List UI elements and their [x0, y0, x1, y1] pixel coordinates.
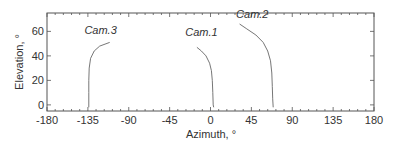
series-label-cam3: Cam.3 [84, 24, 117, 36]
y-tick-label: 20 [32, 74, 44, 86]
x-tick-label: -180 [36, 114, 58, 126]
y-tick-label: 60 [32, 25, 44, 37]
y-tick-label: 40 [32, 50, 44, 62]
series-label-cam2: Cam.2 [236, 8, 268, 20]
series-line-cam1 [197, 47, 214, 107]
x-tick-label: 45 [245, 114, 257, 126]
y-axis-title: Elevation, ° [13, 34, 25, 90]
x-tick-label: -45 [162, 114, 178, 126]
series-label-cam1: Cam.1 [185, 26, 217, 38]
x-tick-label: -90 [121, 114, 137, 126]
x-tick-label: 180 [365, 114, 383, 126]
series-line-cam2 [240, 24, 274, 107]
series-lines [89, 24, 273, 107]
x-tick-label: 0 [207, 114, 213, 126]
chart: -180-135-90-4504590135180 0204060 Cam.3C… [0, 0, 398, 147]
x-tick-label: 135 [324, 114, 342, 126]
x-tick-label: -135 [77, 114, 99, 126]
series-line-cam3 [89, 42, 110, 107]
series-labels: Cam.3Cam.1Cam.2 [84, 8, 268, 38]
y-tick-label: 0 [38, 99, 44, 111]
x-axis-title: Azimuth, ° [186, 128, 236, 140]
x-tick-label: 90 [286, 114, 298, 126]
